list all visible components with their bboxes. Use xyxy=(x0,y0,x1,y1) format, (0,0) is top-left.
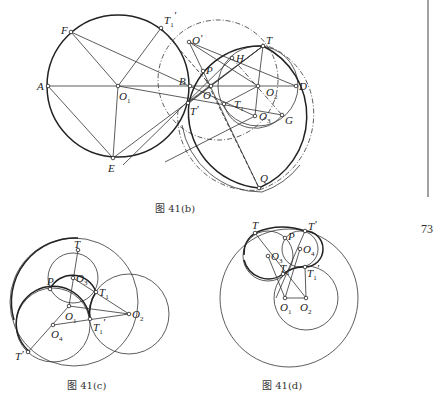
svg-text:E: E xyxy=(107,162,115,174)
svg-text:O: O xyxy=(203,89,211,101)
svg-text:O2: O2 xyxy=(132,308,144,323)
svg-text:T: T xyxy=(266,34,273,46)
svg-text:G: G xyxy=(285,114,293,126)
svg-text:O1: O1 xyxy=(119,90,131,105)
svg-text:T1: T1 xyxy=(234,98,244,113)
svg-text:T′: T′ xyxy=(190,103,199,117)
svg-text:O3: O3 xyxy=(76,272,88,287)
page-number: 73 xyxy=(421,222,433,236)
caption-41b: 图 41(b) xyxy=(155,203,195,214)
svg-text:T: T xyxy=(252,219,259,231)
svg-text:B: B xyxy=(179,75,186,87)
caption-41d: 图 41(d) xyxy=(262,380,302,391)
figure-41d: T P T′ O3 O4 T1 T1′ O1 O2 图 41(d) xyxy=(220,218,358,391)
svg-text:T1: T1 xyxy=(99,286,109,301)
svg-text:T′: T′ xyxy=(15,348,24,362)
svg-text:T: T xyxy=(74,238,81,250)
svg-text:O4: O4 xyxy=(51,328,63,343)
svg-text:P: P xyxy=(205,64,213,76)
caption-41c: 图 41(c) xyxy=(67,380,106,391)
svg-text:T1′: T1′ xyxy=(164,9,177,29)
svg-text:O1: O1 xyxy=(280,301,292,316)
svg-text:H: H xyxy=(235,52,245,64)
svg-text:P: P xyxy=(287,230,295,242)
svg-text:P: P xyxy=(46,275,54,287)
svg-text:F: F xyxy=(60,24,68,36)
svg-text:Q: Q xyxy=(260,172,268,184)
svg-text:O2: O2 xyxy=(300,301,312,316)
geometry-figures: 73 xyxy=(0,0,443,403)
svg-text:D: D xyxy=(298,80,307,92)
svg-text:O′: O′ xyxy=(192,32,203,46)
figure-41b: A F T1′ E O1 B O′ P O T′ H T O2 D T1 O3 … xyxy=(36,9,314,214)
svg-text:O3: O3 xyxy=(259,110,271,125)
arc-outer-dashdot xyxy=(178,44,314,190)
figure-41c: T O3 P T1 O1 O2 O4 T1′ T′ 图 41(c) xyxy=(10,238,169,391)
svg-text:T′: T′ xyxy=(308,218,317,232)
svg-text:O4: O4 xyxy=(303,243,315,258)
svg-text:A: A xyxy=(36,80,44,92)
